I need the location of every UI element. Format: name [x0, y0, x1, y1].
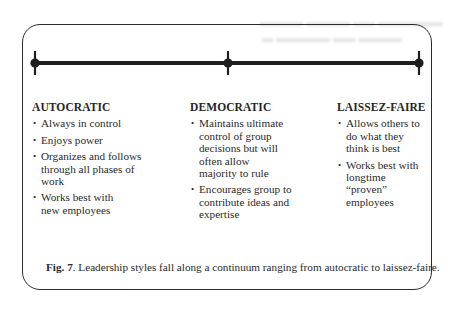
bullet-icon: •: [338, 159, 341, 171]
list-item: •Allows others to do what they think is …: [337, 117, 427, 154]
list-item: •Works best with longtime “proven” emplo…: [337, 159, 427, 209]
column-democratic: DEMOCRATIC •Maintains ultimate control o…: [190, 101, 295, 225]
bullet-icon: •: [33, 117, 36, 129]
heading-laissez-faire: LAISSEZ-FAIRE: [337, 101, 427, 113]
list-item: •Enjoys power: [32, 134, 152, 146]
marker-left-icon: [30, 51, 39, 75]
bullet-icon: •: [191, 183, 194, 195]
column-autocratic: AUTOCRATIC •Always in control •Enjoys po…: [32, 101, 152, 220]
bullet-icon: •: [33, 150, 36, 162]
list-item: •Works best with new employees: [32, 191, 133, 216]
heading-autocratic: AUTOCRATIC: [32, 101, 152, 113]
bullet-icon: •: [33, 134, 36, 146]
figure-label: Fig. 7: [46, 261, 73, 273]
bullet-icon: •: [33, 191, 36, 203]
list-item: •Always in control: [32, 117, 152, 129]
bullet-icon: •: [338, 117, 341, 129]
marker-right-icon: [414, 51, 423, 75]
bullet-icon: •: [191, 117, 194, 129]
list-item: •Organizes and follows through all phase…: [32, 150, 145, 187]
list-item: •Encourages group to contribute ideas an…: [190, 183, 295, 220]
heading-democratic: DEMOCRATIC: [190, 101, 295, 113]
list-autocratic: •Always in control •Enjoys power •Organi…: [32, 117, 152, 216]
column-laissez-faire: LAISSEZ-FAIRE •Allows others to do what …: [337, 101, 427, 212]
list-item: •Maintains ultimate control of group dec…: [190, 117, 289, 179]
list-democratic: •Maintains ultimate control of group dec…: [190, 117, 295, 220]
caption-text: . Leadership styles fall along a continu…: [73, 261, 440, 273]
figure-caption: Fig. 7. Leadership styles fall along a c…: [46, 261, 440, 273]
list-laissez-faire: •Allows others to do what they think is …: [337, 117, 427, 208]
marker-center-icon: [223, 51, 232, 75]
